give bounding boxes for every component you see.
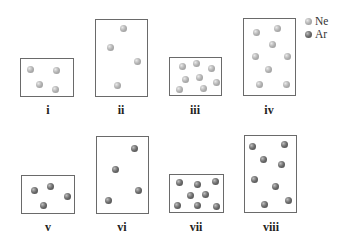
ne-particle-icon — [120, 25, 127, 32]
ar-particle-icon — [135, 187, 142, 194]
ar-particle-icon — [64, 193, 71, 200]
ne-particle-icon — [196, 74, 203, 81]
ne-particle-icon — [274, 25, 281, 32]
ne-particle-icon — [114, 82, 121, 89]
ne-particle-icon — [36, 81, 43, 88]
ar-particle-icon — [281, 141, 288, 148]
ar-particle-icon — [131, 145, 138, 152]
ne-particle-icon — [269, 41, 276, 48]
ne-particle-icon — [283, 81, 290, 88]
ar-particle-icon — [305, 31, 312, 38]
legend-label-ar: Ar — [315, 28, 327, 40]
ne-particle-icon — [305, 18, 312, 25]
ne-particle-icon — [256, 81, 263, 88]
ne-particle-icon — [265, 66, 272, 73]
panel-label-vi: vi — [117, 221, 126, 233]
container-box-vi — [96, 136, 149, 214]
ar-particle-icon — [40, 202, 47, 209]
legend-item-ne: Ne — [305, 15, 328, 27]
ar-particle-icon — [285, 197, 292, 204]
ar-particle-icon — [187, 192, 194, 199]
ne-particle-icon — [52, 86, 59, 93]
ar-particle-icon — [278, 161, 285, 168]
panel-label-iv: iv — [264, 104, 273, 116]
ar-particle-icon — [251, 176, 258, 183]
panel-label-vii: vii — [190, 221, 203, 233]
ne-particle-icon — [107, 44, 114, 51]
ne-particle-icon — [200, 85, 207, 92]
ar-particle-icon — [174, 202, 181, 209]
ne-particle-icon — [179, 63, 186, 70]
container-box-i — [20, 58, 74, 97]
ne-particle-icon — [176, 86, 183, 93]
ar-particle-icon — [176, 179, 183, 186]
ar-particle-icon — [31, 187, 38, 194]
panel-label-ii: ii — [118, 104, 125, 116]
ar-particle-icon — [194, 181, 201, 188]
ar-particle-icon — [202, 191, 209, 198]
ne-particle-icon — [252, 53, 259, 60]
ar-particle-icon — [212, 178, 219, 185]
panel-label-v: v — [45, 221, 51, 233]
panel-label-iii: iii — [190, 104, 200, 116]
ar-particle-icon — [194, 202, 201, 209]
legend-item-ar: Ar — [305, 28, 327, 40]
ar-particle-icon — [213, 203, 220, 210]
ne-particle-icon — [27, 66, 34, 73]
ar-particle-icon — [47, 183, 54, 190]
ne-particle-icon — [182, 76, 189, 83]
ar-particle-icon — [249, 143, 256, 150]
ne-particle-icon — [193, 60, 200, 67]
ar-particle-icon — [105, 197, 112, 204]
ar-particle-icon — [261, 201, 268, 208]
ne-particle-icon — [134, 58, 141, 65]
panel-label-i: i — [46, 104, 49, 116]
ne-particle-icon — [253, 29, 260, 36]
panel-label-viii: viii — [263, 221, 279, 233]
ne-particle-icon — [213, 79, 220, 86]
ar-particle-icon — [112, 166, 119, 173]
ne-particle-icon — [208, 65, 215, 72]
ne-particle-icon — [53, 67, 60, 74]
ar-particle-icon — [260, 156, 267, 163]
ne-particle-icon — [284, 53, 291, 60]
legend-label-ne: Ne — [315, 15, 328, 27]
ar-particle-icon — [272, 183, 279, 190]
